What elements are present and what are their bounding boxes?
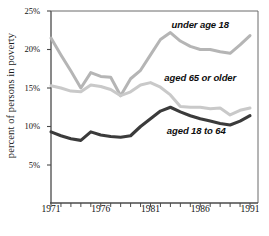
axis-lines [50, 11, 258, 203]
series-label-aged-18-to-64: aged 18 to 64 [167, 125, 226, 136]
series-line-under-age-18 [51, 33, 250, 96]
series-label-aged-65-or-older: aged 65 or older [164, 72, 236, 83]
poverty-rate-line-chart: percent of persons in poverty 25%20%15%1… [0, 0, 269, 236]
series-label-under-age-18: under age 18 [172, 19, 229, 30]
chart-plot-area [0, 0, 269, 236]
